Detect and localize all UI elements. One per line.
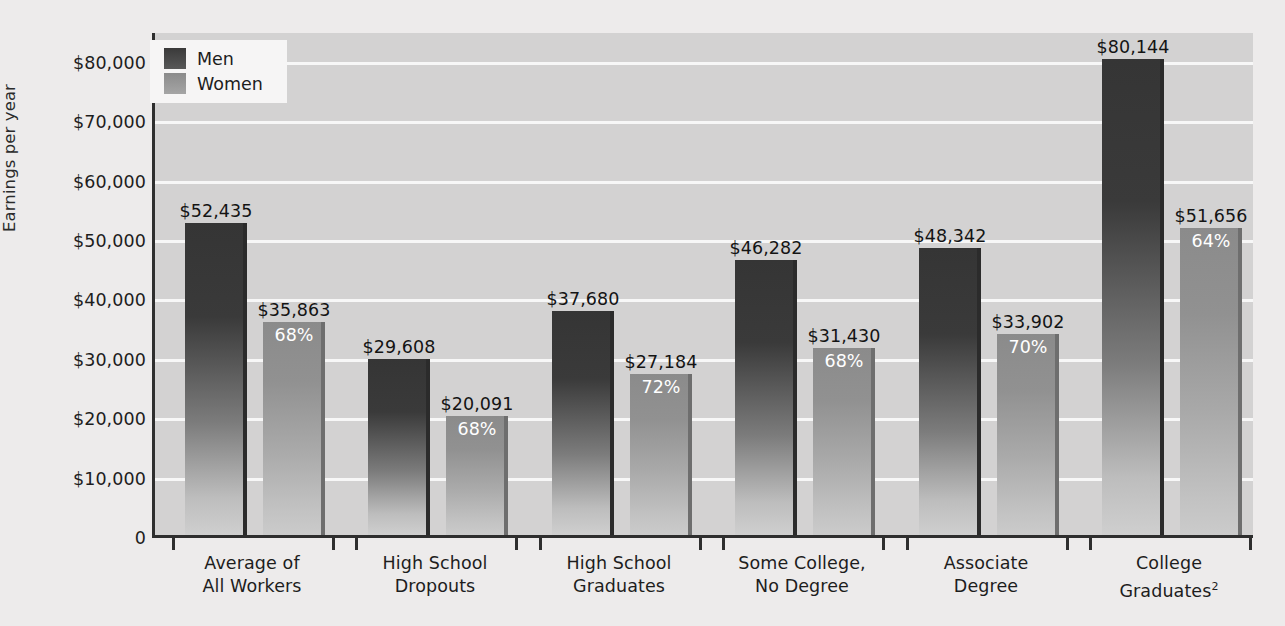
bar-group: $80,144$51,65664% (1102, 33, 1242, 535)
legend-item-men: Men (164, 48, 263, 69)
bar-women[interactable]: $20,09168% (446, 416, 508, 535)
y-tick-label: $80,000 (0, 53, 146, 73)
x-tick-label-line2: Degree (916, 575, 1056, 598)
x-tick-label-line2: Graduates2 (1099, 575, 1239, 603)
x-axis-tick (699, 538, 702, 550)
bar-men[interactable]: $46,282 (735, 260, 797, 535)
x-axis-tick (882, 538, 885, 550)
y-tick-label: $50,000 (0, 231, 146, 251)
bar-group: $46,282$31,43068% (735, 33, 875, 535)
bar-value-label: $33,902 (991, 312, 1064, 332)
bar-men[interactable]: $80,144 (1102, 59, 1164, 535)
legend-swatch-men (164, 48, 186, 69)
x-tick-label-line1: College (1099, 552, 1239, 575)
bar-group: $52,435$35,86368% (185, 33, 325, 535)
x-tick-label: CollegeGraduates2 (1099, 552, 1239, 603)
x-tick-label-line1: Average of (182, 552, 322, 575)
bar-fill (1102, 59, 1164, 535)
x-tick-label: Some College,No Degree (732, 552, 872, 598)
bar-men[interactable]: $37,680 (552, 311, 614, 535)
bar-men[interactable]: $29,608 (368, 359, 430, 535)
y-tick-label: $20,000 (0, 409, 146, 429)
bar-value-label: $29,608 (362, 337, 435, 357)
x-tick-label-line1: High School (549, 552, 689, 575)
x-axis-tick (332, 538, 335, 550)
bar-groups: $52,435$35,86368%$29,608$20,09168%$37,68… (155, 33, 1253, 535)
bar-value-label: $48,342 (913, 226, 986, 246)
x-axis-tick (1066, 538, 1069, 550)
x-axis-tick (172, 538, 175, 550)
y-axis-tick-labels: $80,000$70,000$60,000$50,000$40,000$30,0… (0, 33, 146, 538)
legend-label-men: Men (197, 49, 234, 69)
y-tick-label: $30,000 (0, 350, 146, 370)
x-axis-tick (539, 538, 542, 550)
x-tick-label: High SchoolGraduates (549, 552, 689, 598)
bar-men[interactable]: $52,435 (185, 223, 247, 535)
bar-value-label: $51,656 (1174, 206, 1247, 226)
bar-ratio-label: 64% (1191, 231, 1230, 251)
x-tick-label-line1: Some College, (732, 552, 872, 575)
bar-value-label: $20,091 (440, 394, 513, 414)
bar-ratio-label: 70% (1008, 337, 1047, 357)
bar-value-label: $31,430 (807, 326, 880, 346)
x-tick-label-line1: Associate (916, 552, 1056, 575)
y-tick-label: 0 (0, 528, 146, 548)
x-axis-tick (515, 538, 518, 550)
bar-fill (919, 248, 981, 535)
legend-label-women: Women (197, 74, 263, 94)
x-tick-label: Average ofAll Workers (182, 552, 322, 598)
bar-women[interactable]: $35,86368% (263, 322, 325, 535)
bar-fill (1180, 228, 1242, 535)
x-axis-tick (1089, 538, 1092, 550)
x-tick-label-line2: All Workers (182, 575, 322, 598)
bar-fill (997, 334, 1059, 535)
bar-value-label: $27,184 (624, 352, 697, 372)
bar-women[interactable]: $31,43068% (813, 348, 875, 535)
y-tick-label: $70,000 (0, 112, 146, 132)
bar-group: $29,608$20,09168% (368, 33, 508, 535)
bar-ratio-label: 72% (641, 377, 680, 397)
bar-fill (185, 223, 247, 535)
bar-fill (630, 374, 692, 536)
x-axis-tick (722, 538, 725, 550)
legend-swatch-women (164, 73, 186, 94)
bar-women[interactable]: $51,65664% (1180, 228, 1242, 535)
chart-figure: Earnings per year $80,000$70,000$60,000$… (0, 0, 1285, 626)
x-tick-label-line2: Graduates (549, 575, 689, 598)
x-tick-label-line2: Dropouts (365, 575, 505, 598)
bar-men[interactable]: $48,342 (919, 248, 981, 535)
x-axis-tick (355, 538, 358, 550)
bar-value-label: $37,680 (546, 289, 619, 309)
bar-group: $37,680$27,18472% (552, 33, 692, 535)
chart-legend: Men Women (150, 40, 287, 103)
bar-value-label: $80,144 (1096, 37, 1169, 57)
bar-ratio-label: 68% (274, 325, 313, 345)
bar-fill (735, 260, 797, 535)
bar-ratio-label: 68% (824, 351, 863, 371)
x-tick-label-line1: High School (365, 552, 505, 575)
bar-value-label: $35,863 (257, 300, 330, 320)
bar-value-label: $52,435 (179, 201, 252, 221)
x-axis-tick-labels: Average ofAll WorkersHigh SchoolDropouts… (152, 552, 1253, 614)
footnote-marker: 2 (1211, 580, 1218, 593)
plot-area: $52,435$35,86368%$29,608$20,09168%$37,68… (152, 33, 1253, 538)
y-tick-label: $40,000 (0, 290, 146, 310)
bar-group: $48,342$33,90270% (919, 33, 1059, 535)
legend-item-women: Women (164, 73, 263, 94)
bar-fill (552, 311, 614, 535)
bar-ratio-label: 68% (457, 419, 496, 439)
x-axis-tick (906, 538, 909, 550)
x-axis-ticks (152, 538, 1253, 550)
x-axis-tick (1249, 538, 1252, 550)
y-tick-label: $60,000 (0, 172, 146, 192)
bar-women[interactable]: $33,90270% (997, 334, 1059, 535)
bar-women[interactable]: $27,18472% (630, 374, 692, 536)
bar-value-label: $46,282 (729, 238, 802, 258)
x-tick-label-line2: No Degree (732, 575, 872, 598)
y-tick-label: $10,000 (0, 469, 146, 489)
bar-fill (263, 322, 325, 535)
bar-fill (813, 348, 875, 535)
x-tick-label: AssociateDegree (916, 552, 1056, 598)
x-tick-label: High SchoolDropouts (365, 552, 505, 598)
bar-fill (368, 359, 430, 535)
